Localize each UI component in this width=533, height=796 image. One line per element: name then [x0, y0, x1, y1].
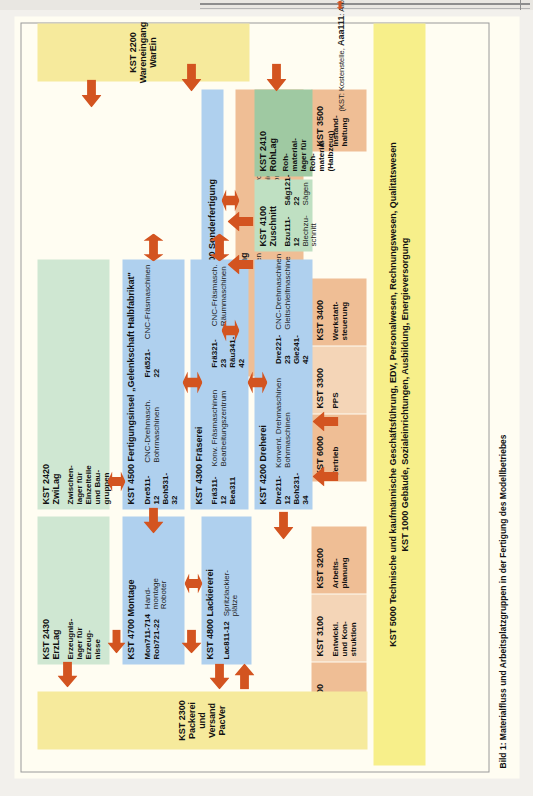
cell-codes-b: Frä321-23 Räu341-42 — [210, 331, 246, 367]
page-rule-tick — [520, 0, 521, 10]
cell-machines: Spritzlackier- plätze — [222, 570, 238, 616]
band-wareneingang-line1: KST 2200 Wareneingang — [129, 22, 149, 84]
cell-lackiererei-4800: KST 4800 Lackiererei Lac811-12 Spritzlac… — [202, 517, 252, 665]
store-sub: Roh- material- lager für Roh- material (… — [281, 95, 335, 172]
admin-box-kst3200: KST 3200 Arbeits- planung — [312, 527, 367, 594]
band-admin-line2: KST 1000 Gebäude, Sozialeinrichtungen, A… — [401, 238, 411, 552]
cell-machines-a: CNC-Drehmasch. Bohrmaschinen — [143, 400, 179, 463]
figure-page: KST 5000 Technische und kaufmännische Ge… — [0, 0, 533, 796]
admin-box-kst3400: KST 3400 Werkstatt- steuerung — [312, 279, 367, 346]
cell-montage-4700: KST 4700 Montage Mon711-714 Rob721-22 Ha… — [123, 517, 185, 665]
cell-machines: Hand- montage Roboter — [143, 578, 168, 609]
cell-codes-a: Dre211-12 Boh231-34 — [274, 473, 310, 505]
admin-box-title: KST 3400 — [316, 284, 326, 341]
store-rohlag-2410: KST 2410 RohLag Roh- material- lager für… — [255, 90, 313, 177]
cell-title: KST 4100 Zuschnitt — [259, 185, 279, 247]
cell-codes-a: Frä311-12 Bea311 — [210, 472, 246, 505]
legend-note-1: (KST: Kostenstelle, — [337, 48, 346, 111]
diagram-frame: KST 5000 Technische und kaufmännische Ge… — [21, 23, 490, 773]
store-sub: Zwischen- lager für Einzelteile und Bau-… — [66, 265, 111, 505]
page-rule-top-thin — [200, 8, 530, 9]
cell-group-b: Säg121-22 Sägen — [283, 175, 317, 206]
cell-title: KST 4700 Montage — [127, 522, 137, 660]
store-erzlag-2430: KST 2430 ErzLag Erzeugnis- lager für Erz… — [38, 517, 110, 665]
admin-box-sub: PPS — [331, 352, 340, 409]
admin-box-kst3100: KST 3100 Entwickl. und Kon- struktion — [312, 595, 367, 662]
cell-machines-b: CNC-Fräsmasch. Räummaschinen — [210, 265, 246, 327]
admin-box-title: KST 3200 — [316, 532, 326, 589]
arrow-warein-to-dreherei — [82, 80, 102, 108]
cell-title: KST 4500 Fertigungsinsel „Gelenkschaft H… — [127, 265, 137, 505]
legend-note: (KST: Kostenstelle, Aaa111: Arbeitsplatz… — [336, 0, 346, 112]
legend-note-2: Aaa111 — [336, 15, 346, 46]
admin-box-title: KST 3300 — [316, 352, 326, 409]
admin-box-sub: Arbeits- planung — [331, 532, 349, 589]
band-admin: KST 5000 Technische und kaufmännische Ge… — [374, 24, 426, 766]
arrow-blech-in — [267, 64, 287, 92]
admin-box-title: KST 3100 — [316, 600, 326, 657]
band-admin-line1: KST 5000 Technische und kaufmännische Ge… — [389, 142, 399, 647]
cell-title: KST 4800 Lackiererei — [206, 522, 216, 660]
page-rule-top — [200, 3, 530, 5]
arrow-packerei-to-lackiererei — [235, 664, 255, 690]
store-title: KST 2430 ErzLag — [42, 522, 62, 660]
cell-machines-b: CNC-Drehmaschinen Gleitschleifmaschine — [274, 254, 310, 330]
cell-group-a: Bzu111-12 Blechzu- schnitt — [283, 215, 317, 246]
arrow-lackiererei-to-erzlag — [182, 630, 202, 654]
store-sub: Erzeugnis- lager für Erzeug- nisse — [66, 522, 102, 660]
admin-box-sub: Vertrieb — [331, 420, 340, 477]
cell-machines-a: Konvent. Drehmaschinen Bohrmaschinen — [274, 378, 310, 468]
arrow-montage-lackiererei — [185, 574, 203, 594]
admin-box-kst3300: KST 3300 PPS — [312, 347, 367, 414]
admin-box-sub: Entwickl. und Kon- struktion — [331, 600, 358, 657]
cell-machines-a: Konv. Fräsmaschinen Bearbeitungszentrum — [210, 390, 246, 467]
cell-fertigungsinsel-4500: KST 4500 Fertigungsinsel „Gelenkschaft H… — [123, 260, 185, 510]
cell-machines-b: CNC-Fräsmaschinen — [143, 265, 179, 340]
store-title: KST 2410 RohLag — [259, 95, 279, 172]
store-zwilag-2420: KST 2420 ZwiLag Zwischen- lager für Einz… — [38, 260, 110, 510]
admin-box-sub: Werkstatt- steuerung — [331, 284, 349, 341]
cell-codes-a: Dre511-12 Boh531-32 — [143, 468, 179, 505]
band-wareneingang-line2: WarEin — [148, 37, 158, 68]
arrow-dreherei-out — [274, 512, 294, 540]
band-packerei: KST 2300 Packerei und Versand PacVer — [38, 692, 368, 750]
store-title: KST 2420 ZwiLag — [42, 265, 62, 505]
cell-zuschnitt-4100: KST 4100 Zuschnitt Bzu111-12 Blechzu- sc… — [255, 180, 313, 252]
arrow-lackiererei-to-packerei — [210, 664, 230, 690]
band-wareneingang: KST 2200 Wareneingang WarEin — [38, 24, 250, 82]
cell-codes: Lac811-12 — [222, 621, 238, 659]
band-packerei-line2: PacVer — [217, 705, 227, 735]
figure-caption: Bild 1: Materialfluss und Arbeitsplatzgr… — [498, 434, 508, 768]
arrow-fertigungsinsel-sonderfertigung — [144, 234, 164, 262]
arrow-erzlag-to-packerei — [58, 662, 78, 688]
cell-codes: Mon711-714 Rob721-22 — [143, 614, 168, 659]
diagram-canvas: KST 5000 Technische und kaufmännische Ge… — [15, 17, 520, 779]
cell-codes-b: Dre221-23 Gle241-42 — [274, 335, 310, 364]
band-packerei-line1: KST 2300 Packerei und Versand — [178, 697, 218, 745]
cell-codes-b: Frä521-22 — [143, 344, 179, 377]
